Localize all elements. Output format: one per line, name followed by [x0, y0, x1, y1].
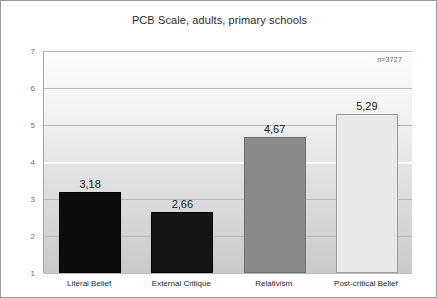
y-tick-label-3: 3	[19, 195, 35, 204]
category-label-literal-belief: Literal Belief	[67, 279, 111, 288]
gridline-7	[44, 51, 412, 52]
bar-literal-belief: 3,18	[59, 192, 121, 273]
y-tick-label-2: 2	[19, 232, 35, 241]
y-tick-label-4: 4	[19, 158, 35, 167]
y-tick-label-1: 1	[19, 269, 35, 278]
bar-value-label: 3,18	[79, 178, 100, 190]
bar-value-label: 4,67	[264, 123, 285, 135]
bar-external-critique: 2,66	[151, 212, 213, 273]
bar-value-label: 2,66	[172, 198, 193, 210]
bar-post-critical-belief: 5,29	[336, 114, 398, 273]
category-label-relativism: Relativism	[255, 279, 292, 288]
gridline-1	[44, 273, 412, 274]
category-label-external-critique: External Critique	[152, 279, 211, 288]
chart-frame: PCB Scale, adults, primary schools n=372…	[0, 0, 437, 298]
y-tick-label-5: 5	[19, 121, 35, 130]
y-tick-label-6: 6	[19, 84, 35, 93]
gridline-6	[44, 88, 412, 89]
y-tick-label-7: 7	[19, 47, 35, 56]
bar-value-label: 5,29	[356, 100, 377, 112]
bar-relativism: 4,67	[244, 137, 306, 273]
chart-title: PCB Scale, adults, primary schools	[1, 14, 437, 26]
category-label-post-critical-belief: Post-critical Belief	[334, 279, 398, 288]
sample-size-annotation: n=3727	[377, 56, 402, 63]
plot-area: n=3727 3,182,664,675,29	[43, 51, 412, 273]
